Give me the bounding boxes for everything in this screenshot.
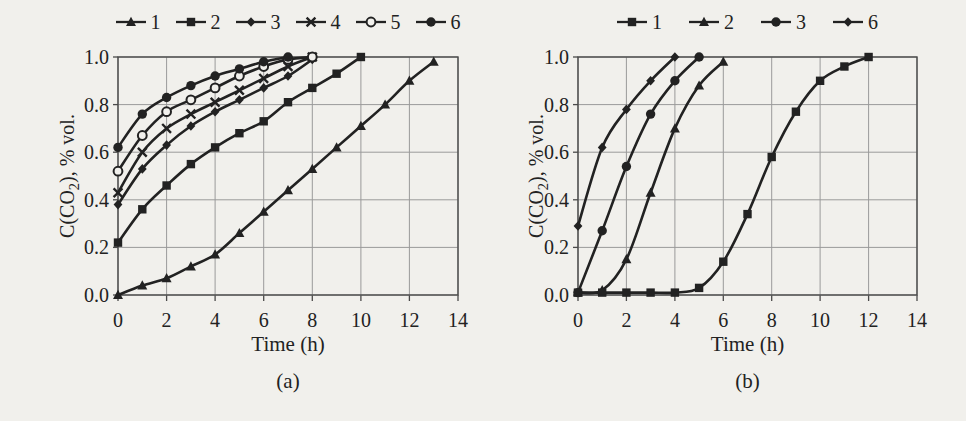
chart-a-y-axis-title: C(CO2), % vol. [56,114,83,238]
chart-b-plot-area: 024681012140.00.20.40.60.81.0 [483,0,966,421]
y-axis-title-text: ), % vol. [525,114,547,183]
x-tick-label: 14 [907,309,927,331]
x-tick-label: 4 [670,309,680,331]
x-tick-label: 10 [810,309,830,331]
x-tick-label: 8 [307,309,317,331]
x-tick-label: 10 [351,309,371,331]
x-tick-label: 0 [113,309,123,331]
chart-b-y-axis-title: C(CO2), % vol. [525,114,552,238]
y-tick-label: 1.0 [84,46,109,68]
x-tick-label: 2 [621,309,631,331]
series-2-points [573,57,728,297]
y-tick-label: 0.2 [544,236,569,258]
y-tick-label: 1.0 [544,46,569,68]
y-tick-label: 0.4 [84,189,109,211]
x-tick-label: 14 [448,309,468,331]
x-tick-label: 8 [767,309,777,331]
y-axis-title-text: ), % vol. [56,114,78,183]
y-tick-label: 0.0 [544,284,569,306]
series-2-line [578,62,723,294]
chart-a-caption: (a) [118,369,458,394]
x-tick-label: 6 [259,309,269,331]
y-axis-title-text: C(CO [56,190,78,238]
series-1-points [113,57,439,299]
chart-b: 1236 024681012140.00.20.40.60.81.0 C(CO2… [483,0,966,421]
y-axis-title-text: C(CO [525,190,547,238]
y-tick-label: 0.6 [84,141,109,163]
chart-a-x-axis-title: Time (h) [118,332,458,357]
y-axis-title-subscript: 2 [66,183,82,190]
y-tick-label: 0.8 [84,94,109,116]
x-tick-label: 6 [718,309,728,331]
x-tick-label: 4 [210,309,220,331]
x-tick-label: 2 [162,309,172,331]
figure: 123456 024681012140.00.20.40.60.81.0 C(C… [0,0,966,421]
y-tick-label: 0.2 [84,236,109,258]
x-tick-label: 12 [859,309,879,331]
y-tick-label: 0.8 [544,94,569,116]
series-2-points [114,53,365,247]
series-2-line [118,57,361,243]
chart-b-x-axis-title: Time (h) [578,332,917,357]
x-tick-label: 0 [573,309,583,331]
x-tick-label: 12 [399,309,419,331]
chart-a: 123456 024681012140.00.20.40.60.81.0 C(C… [0,0,483,421]
plot-border [118,57,458,295]
y-axis-title-subscript: 2 [535,183,551,190]
chart-b-caption: (b) [578,369,917,394]
y-tick-label: 0.0 [84,284,109,306]
